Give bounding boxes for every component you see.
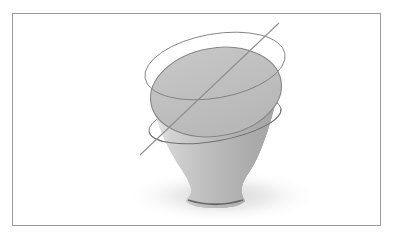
figure-canvas <box>0 0 394 243</box>
surface-of-revolution-figure <box>0 0 394 243</box>
